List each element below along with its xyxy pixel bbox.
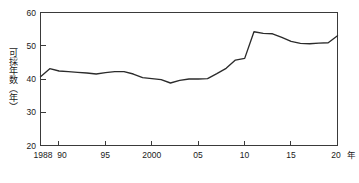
- x-tick-label: 15: [286, 150, 296, 160]
- x-tick-label: 20: [331, 150, 341, 160]
- line-chart-plot: 60 50 40 30 20 1988 90 95 2000 05 10 15: [0, 0, 359, 183]
- y-axis-ticks: [41, 13, 46, 146]
- x-axis-unit-label: 年: [347, 150, 356, 160]
- y-tick-label: 60: [27, 8, 37, 18]
- y-tick-label: 20: [27, 141, 37, 151]
- x-tick-label: 95: [101, 150, 111, 160]
- data-series-line: [41, 32, 338, 83]
- x-axis-tick-labels: 1988 90 95 2000 05 10 15 20: [34, 150, 341, 160]
- x-tick-label: 1988: [34, 150, 53, 160]
- y-tick-label: 30: [27, 107, 37, 117]
- y-axis-tick-labels: 60 50 40 30 20: [27, 8, 37, 151]
- x-axis-ticks: [41, 141, 338, 146]
- x-tick-label: 05: [193, 150, 203, 160]
- y-tick-label: 50: [27, 41, 37, 51]
- y-tick-label: 40: [27, 74, 37, 84]
- x-tick-label: 90: [57, 150, 67, 160]
- x-tick-label: 10: [240, 150, 250, 160]
- x-tick-label: 2000: [142, 150, 161, 160]
- chart-container: 可採年数（年） 60 50 40 30 20: [0, 0, 359, 183]
